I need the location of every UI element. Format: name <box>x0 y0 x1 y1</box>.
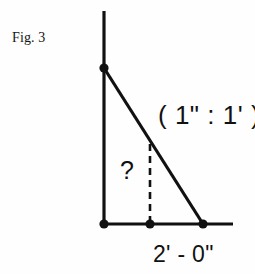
mid-base-point <box>145 219 154 228</box>
origin-point <box>99 219 108 228</box>
figure-canvas: Fig. 3 ( 1" : 1' ) ? 2' - 0" <box>0 0 255 274</box>
right-vertex-point <box>198 219 207 228</box>
apex-point <box>99 63 108 72</box>
base-dimension-label: 2' - 0" <box>153 241 214 267</box>
scale-note-label: ( 1" : 1' ) <box>158 101 255 129</box>
hypotenuse-line <box>104 68 203 224</box>
unknown-dimension-label: ? <box>120 156 134 184</box>
figure-caption: Fig. 3 <box>12 29 45 47</box>
